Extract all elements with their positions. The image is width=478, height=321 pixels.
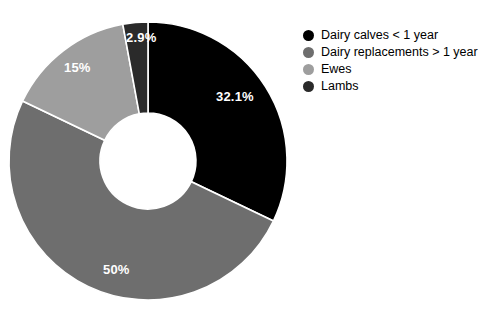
legend-swatch-icon (303, 47, 314, 58)
legend-item-dairy-calves[interactable]: Dairy calves < 1 year (303, 27, 474, 44)
slice-label-ewes: 15% (64, 60, 91, 75)
legend-item-label: Ewes (321, 61, 352, 78)
legend-item-dairy-replacements[interactable]: Dairy replacements > 1 year (303, 44, 474, 61)
slice-label-lambs: 2.9% (126, 30, 156, 45)
legend-item-label: Dairy calves < 1 year (321, 27, 438, 44)
legend-item-ewes[interactable]: Ewes (303, 61, 474, 78)
donut-chart: 32.1% 50% 15% 2.9% (0, 0, 300, 321)
legend-item-label: Lambs (321, 78, 359, 95)
legend-item-lambs[interactable]: Lambs (303, 78, 474, 95)
chart-legend: Dairy calves < 1 year Dairy replacements… (303, 27, 474, 95)
legend-swatch-icon (303, 30, 314, 41)
legend-swatch-icon (303, 81, 314, 92)
slice-label-dairy-calves: 32.1% (216, 89, 254, 104)
donut-slice[interactable] (148, 22, 287, 221)
slice-group (9, 22, 287, 300)
donut-chart-svg (0, 0, 300, 321)
slice-label-dairy-replacements: 50% (103, 262, 130, 277)
legend-item-label: Dairy replacements > 1 year (321, 44, 478, 61)
legend-swatch-icon (303, 64, 314, 75)
